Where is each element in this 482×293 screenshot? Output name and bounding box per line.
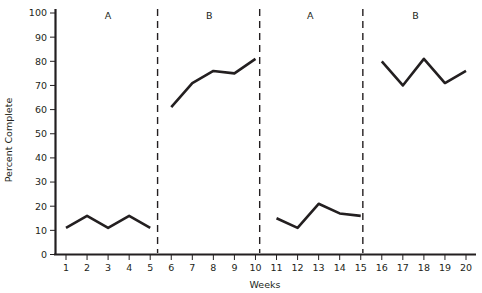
y-tick-label: 10 <box>35 225 47 236</box>
y-tick-label: 60 <box>35 104 47 115</box>
chart-canvas: 0102030405060708090100 12345678910111213… <box>0 0 482 293</box>
x-tick-label: 13 <box>313 262 325 273</box>
x-tick-label: 14 <box>334 262 346 273</box>
phase-label: A <box>307 10 314 21</box>
x-tick-label: 11 <box>270 262 282 273</box>
y-tick-label: 80 <box>35 56 47 67</box>
phase-label: A <box>105 10 112 21</box>
x-tick-label: 15 <box>355 262 367 273</box>
x-tick-label: 2 <box>84 262 90 273</box>
chart-background <box>0 0 482 293</box>
x-tick-label: 1 <box>63 262 69 273</box>
x-tick-label: 6 <box>168 262 174 273</box>
phase-label: B <box>206 10 213 21</box>
x-tick-label: 5 <box>147 262 153 273</box>
x-tick-label: 4 <box>126 262 132 273</box>
x-tick-label: 17 <box>397 262 409 273</box>
phase-label: B <box>412 10 419 21</box>
x-tick-label: 19 <box>439 262 451 273</box>
y-tick-label: 0 <box>41 249 47 260</box>
x-tick-label: 3 <box>105 262 111 273</box>
x-tick-label: 7 <box>189 262 195 273</box>
y-tick-label: 40 <box>35 152 47 163</box>
y-tick-label: 90 <box>35 32 47 43</box>
x-tick-label: 20 <box>460 262 472 273</box>
x-tick-label: 18 <box>418 262 430 273</box>
y-axis-title: Percent Complete <box>3 98 14 183</box>
y-tick-label: 20 <box>35 201 47 212</box>
x-axis-title: Weeks <box>250 279 281 290</box>
y-tick-label: 70 <box>35 80 47 91</box>
y-tick-label: 50 <box>35 128 47 139</box>
x-tick-label: 16 <box>376 262 388 273</box>
y-tick-label: 100 <box>29 7 47 18</box>
x-tick-label: 8 <box>210 262 216 273</box>
x-tick-label: 12 <box>292 262 304 273</box>
y-tick-label: 30 <box>35 176 47 187</box>
abab-reversal-chart: 0102030405060708090100 12345678910111213… <box>0 0 482 293</box>
x-tick-label: 9 <box>231 262 237 273</box>
x-tick-label: 10 <box>249 262 261 273</box>
